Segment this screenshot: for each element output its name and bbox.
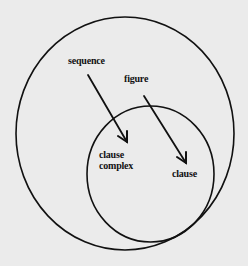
diagram-svg (0, 0, 248, 266)
label-sequence: sequence (68, 55, 105, 66)
diagram-canvas: sequence figure clause complex clause (0, 0, 248, 266)
label-clause-complex-line2: complex (99, 160, 133, 171)
label-figure: figure (124, 73, 148, 84)
label-clause-complex-line1: clause (99, 149, 124, 160)
arrow-figure-to-clause (144, 96, 186, 163)
label-clause: clause (172, 168, 197, 179)
arrow-sequence-to-clause-complex (88, 75, 127, 142)
